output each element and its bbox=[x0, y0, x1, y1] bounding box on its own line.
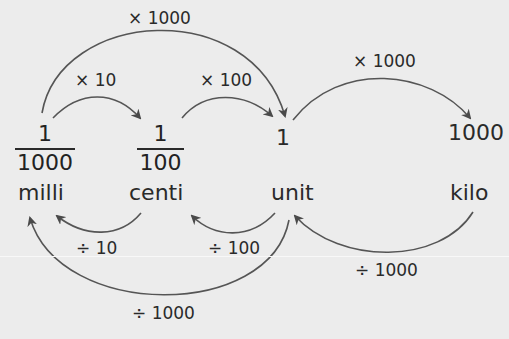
label-unit-to-kilo-multiply: × 1000 bbox=[353, 51, 416, 71]
centi-denominator: 100 bbox=[137, 151, 184, 175]
milli-denominator: 1000 bbox=[15, 151, 75, 175]
centi-numerator: 1 bbox=[137, 122, 184, 146]
kilo-name: kilo bbox=[450, 180, 488, 205]
arrow-unit-to-centi-divide bbox=[192, 213, 275, 233]
arrow-centi-to-milli-divide bbox=[57, 213, 141, 232]
label-kilo-to-unit-divide: ÷ 1000 bbox=[355, 260, 418, 280]
unit-value: 1 bbox=[276, 125, 290, 150]
label-unit-to-centi-divide: ÷ 100 bbox=[208, 238, 260, 258]
arrow-milli-to-centi-multiply bbox=[53, 97, 140, 118]
milli-numerator: 1 bbox=[15, 122, 75, 146]
label-milli-to-unit-multiply: × 1000 bbox=[128, 8, 191, 28]
conversion-diagram: × 1000 × 10 × 100 × 1000 1 1000 1 100 1 … bbox=[0, 0, 509, 339]
arrows-layer bbox=[0, 0, 509, 339]
scan-artifact-line bbox=[0, 256, 509, 257]
milli-value-fraction: 1 1000 bbox=[15, 122, 75, 175]
unit-name: unit bbox=[271, 180, 314, 205]
label-centi-to-milli-divide: ÷ 10 bbox=[76, 238, 117, 258]
arrow-centi-to-unit-multiply bbox=[182, 98, 272, 119]
arrow-unit-to-kilo-multiply bbox=[293, 78, 470, 120]
centi-name: centi bbox=[129, 180, 183, 205]
label-centi-to-unit-multiply: × 100 bbox=[200, 70, 252, 90]
centi-value-fraction: 1 100 bbox=[137, 122, 184, 175]
kilo-value: 1000 bbox=[448, 120, 504, 145]
label-unit-to-milli-divide: ÷ 1000 bbox=[132, 303, 195, 323]
milli-name: milli bbox=[18, 180, 64, 205]
arrow-kilo-to-unit-divide bbox=[295, 212, 473, 252]
label-milli-to-centi-multiply: × 10 bbox=[75, 70, 116, 90]
